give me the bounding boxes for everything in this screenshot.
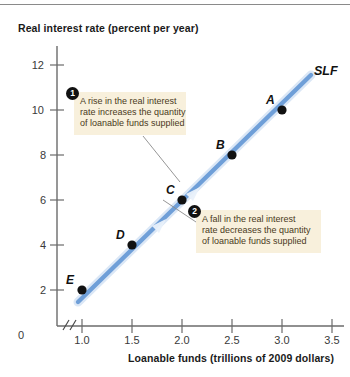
axis-break-icon [63, 320, 76, 330]
data-point-label-b: B [216, 138, 225, 152]
annotation-1-line-2: rate increases the quantity [80, 107, 181, 118]
data-point-label-e: E [66, 273, 74, 287]
annotation-badge-1: 1 [66, 87, 79, 100]
leader-line-1 [143, 136, 180, 182]
annotation-2-line-3: of loanable funds supplied [202, 236, 316, 247]
data-point-a [277, 105, 286, 114]
annotation-1-line-3: of loanable funds supplied [80, 118, 181, 129]
annotation-1-line-1: A rise in the real interest [80, 96, 181, 107]
x-tick-label-2-5: 2.5 [217, 334, 247, 346]
y-tick-label-8: 8 [24, 149, 46, 161]
annotation-callout-2: A fall in the real interest rate decreas… [196, 210, 321, 253]
y-tick-label-10: 10 [22, 104, 44, 116]
annotation-2-line-1: A fall in the real interest [202, 214, 316, 225]
chart-figure: Real interest rate (percent per year) [0, 0, 350, 377]
annotation-2-line-2: rate decreases the quantity [202, 225, 316, 236]
annotation-badge-2: 2 [188, 205, 201, 218]
x-tick-label-2-0: 2.0 [167, 334, 197, 346]
data-point-e [77, 285, 86, 294]
origin-label: 0 [14, 329, 28, 341]
data-point-label-a: A [266, 93, 275, 107]
data-point-d [127, 240, 136, 249]
plot-area [0, 0, 350, 377]
x-axis-title: Loanable funds (trillions of 2009 dollar… [128, 352, 334, 364]
y-tick-label-4: 4 [24, 239, 46, 251]
x-tick-label-3-0: 3.0 [267, 334, 297, 346]
slf-curve-label: SLF [314, 64, 338, 78]
annotation-callout-1: A rise in the real interest rate increas… [74, 92, 186, 135]
y-tick-label-12: 12 [22, 59, 44, 71]
x-tick-label-1-5: 1.5 [117, 334, 147, 346]
y-tick-label-6: 6 [24, 194, 46, 206]
data-point-label-c: C [166, 183, 175, 197]
y-tick-label-2: 2 [24, 284, 46, 296]
data-point-label-d: D [116, 228, 125, 242]
data-point-b [227, 150, 236, 159]
data-point-c [177, 195, 186, 204]
x-tick-label-3-5: 3.5 [317, 334, 347, 346]
x-tick-label-1-0: 1.0 [67, 334, 97, 346]
